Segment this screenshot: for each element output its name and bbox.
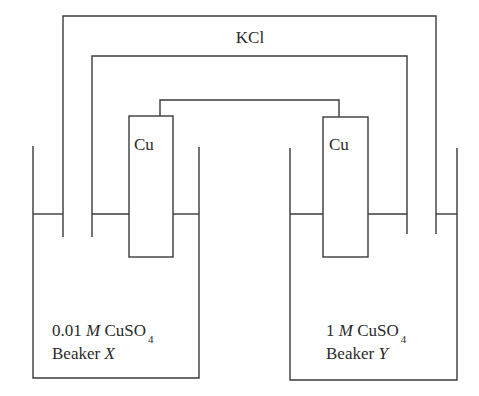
salt-bridge-label: KCl (236, 28, 265, 47)
beaker-x: 0.01 M CuSO4 Beaker X (33, 146, 199, 378)
beaker-x-concentration: 0.01 M CuSO4 (52, 321, 154, 345)
salt-bridge: KCl (63, 16, 436, 237)
electrode-left: Cu (129, 116, 173, 257)
beaker-y: 1 M CuSO4 Beaker Y (290, 148, 457, 380)
salt-bridge-outer (63, 16, 436, 237)
electrode-right: Cu (323, 117, 368, 257)
electrode-left-label: Cu (134, 135, 154, 154)
beaker-x-label: Beaker X (52, 344, 115, 363)
beaker-y-concentration: 1 M CuSO4 (326, 321, 407, 345)
connecting-wire (160, 100, 339, 117)
electrode-right-label: Cu (329, 135, 349, 154)
concentration-cell-diagram: KCl 0.01 M CuSO4 Beaker X Cu 1 M CuSO4 B… (0, 0, 479, 396)
beaker-y-label: Beaker Y (326, 344, 389, 363)
